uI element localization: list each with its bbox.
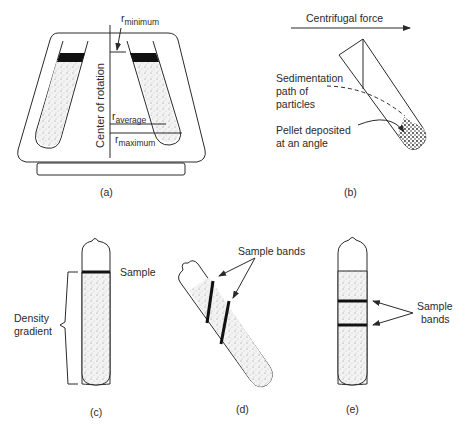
panel-a-fixed-angle-rotor: rminimum raverage rmaximum Center of rot… [18, 12, 206, 198]
sedimentation-label-2: path of [276, 85, 308, 97]
r-maximum-label: rmaximum [115, 133, 155, 148]
panel-e-caption: (e) [346, 403, 359, 415]
density-label-1: Density [14, 312, 50, 324]
panel-a-caption: (a) [100, 186, 113, 198]
panel-e-isopycnic-bands: Sample bands (e) [338, 238, 453, 416]
center-of-rotation-label: Center of rotation [94, 63, 106, 148]
right-tube [127, 41, 181, 145]
r-average-label: raverage [112, 110, 146, 125]
panel-c-density-gradient: Sample Density gradient (c) [14, 239, 156, 419]
sample-bands-label-e-1: Sample [417, 300, 453, 312]
panel-b-caption: (b) [344, 186, 357, 198]
panel-d-angled-bands: Sample bands (d) [179, 245, 306, 415]
centrifugation-diagram: rminimum raverage rmaximum Center of rot… [0, 0, 466, 425]
density-label-2: gradient [14, 325, 52, 337]
density-gradient-brace [60, 272, 78, 384]
pellet-label-1: Pellet deposited [276, 124, 351, 136]
rotor-base [37, 163, 185, 175]
sample-label: Sample [120, 266, 156, 278]
sample-bands-label-d: Sample bands [238, 245, 305, 257]
panel-d-caption: (d) [236, 403, 249, 415]
pellet-label-2: at an angle [276, 137, 328, 149]
panel-c-caption: (c) [90, 406, 102, 418]
left-tube [35, 41, 88, 148]
sedimentation-label-1: Sedimentation [276, 72, 343, 84]
sedimentation-label-3: particles [276, 98, 315, 110]
centrifugal-force-label: Centrifugal force [306, 12, 383, 24]
sample-bands-label-e-2: bands [421, 313, 450, 325]
panel-b-sedimentation: Centrifugal force Sedimentation path of … [276, 12, 426, 198]
angled-tube [339, 39, 426, 150]
r-minimum-label: rminimum [121, 12, 159, 27]
